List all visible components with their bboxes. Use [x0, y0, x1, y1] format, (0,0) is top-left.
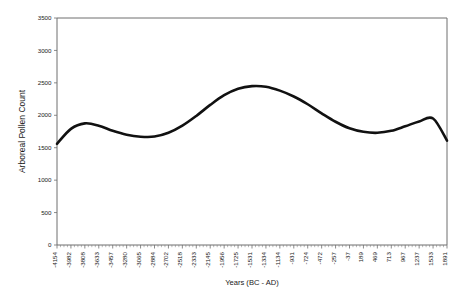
y-tick-label: 3000	[38, 47, 52, 54]
x-tick-label: -2333	[190, 251, 197, 267]
x-tick-label: 713	[385, 251, 392, 262]
x-tick-label: -37	[344, 251, 351, 261]
x-tick-label: 967	[399, 251, 406, 262]
x-tick-label: -3633	[93, 251, 100, 267]
x-tick-label: -724	[302, 251, 309, 264]
x-tick-label: 469	[371, 251, 378, 262]
x-axis-title: Years (BC - AD)	[225, 278, 279, 287]
x-tick-label: -257	[330, 251, 337, 264]
y-tick-label: 1000	[38, 176, 52, 183]
x-tick-label: -1334	[260, 251, 267, 267]
y-tick-label: 3500	[38, 14, 52, 21]
x-tick-label: -3280	[121, 251, 128, 267]
x-tick-label: 1891	[441, 251, 448, 265]
x-tick-label: 189	[357, 251, 364, 262]
x-tick-label: -1956	[218, 251, 225, 267]
arboreal-pollen-line-chart: 0500100015002000250030003500 -4154-3982-…	[0, 0, 461, 298]
x-tick-label: -2518	[176, 251, 183, 267]
y-axis-title: Arboreal Pollen Count	[17, 89, 27, 173]
x-tick-label: -3808	[79, 251, 86, 267]
x-tick-label: -4154	[51, 251, 58, 267]
x-tick-label: -2145	[204, 251, 211, 267]
y-tick-label: 500	[41, 209, 52, 216]
y-tick-label: 2000	[38, 111, 52, 118]
x-tick-label: -1134	[274, 251, 281, 267]
x-tick-label: -1725	[232, 251, 239, 267]
x-tick-label: 1237	[413, 251, 420, 265]
y-tick-label: 0	[48, 241, 52, 248]
y-tick-label: 2500	[38, 79, 52, 86]
x-tick-label: -3457	[107, 251, 114, 267]
x-tick-label: -1531	[246, 251, 253, 267]
x-tick-label: -3982	[65, 251, 72, 267]
x-tick-label: -472	[316, 251, 323, 264]
chart-figure: 0500100015002000250030003500 -4154-3982-…	[0, 0, 461, 298]
x-tick-label: -2884	[149, 251, 156, 267]
x-tick-label: -2702	[162, 251, 169, 267]
y-tick-label: 1500	[38, 144, 52, 151]
x-tick-label: -3065	[135, 251, 142, 267]
x-tick-label: -931	[288, 251, 295, 264]
x-tick-label: 1533	[427, 251, 434, 265]
